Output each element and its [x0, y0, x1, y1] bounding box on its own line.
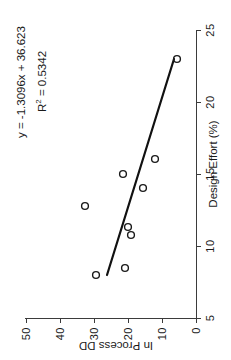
y-axis-title: In Process DD	[79, 340, 153, 352]
y-tick-label-50: 50	[20, 327, 32, 340]
y-tick-label-20: 20	[122, 327, 134, 340]
rotated-figure-wrapper: 5 10 15 20 25 0 10 20 30 40 50 Design Ef…	[0, 0, 231, 360]
y-tick-label-40: 40	[54, 327, 66, 340]
r-squared-value: = 0.5342	[36, 51, 48, 99]
data-point	[122, 265, 129, 272]
data-point	[128, 232, 135, 239]
y-tick-label-0: 0	[190, 327, 202, 334]
r-squared-exponent: 2	[34, 99, 43, 103]
r-squared-text: R2 = 0.5342	[30, 26, 51, 138]
x-tick-label-20: 20	[204, 95, 216, 108]
data-point	[125, 224, 132, 231]
x-tick-label-25: 25	[204, 23, 216, 36]
y-tick-label-30: 30	[88, 327, 100, 340]
regression-line	[107, 59, 174, 275]
x-tick-label-5: 5	[204, 315, 216, 322]
scatter-chart: 5 10 15 20 25 0 10 20 30 40 50 Design Ef…	[0, 0, 231, 360]
data-point	[93, 272, 100, 279]
equation-text: y = -1.3096x + 36.623	[13, 26, 30, 138]
x-tick-label-10: 10	[204, 239, 216, 252]
data-point	[152, 156, 159, 163]
regression-annotation: y = -1.3096x + 36.623 R2 = 0.5342	[13, 26, 51, 138]
r-squared-prefix: R	[36, 104, 48, 112]
data-point	[82, 203, 89, 210]
data-point	[140, 185, 147, 192]
y-tick-label-10: 10	[156, 327, 168, 340]
data-point	[120, 171, 127, 178]
x-axis-title: Design Effort (%)	[207, 120, 219, 207]
